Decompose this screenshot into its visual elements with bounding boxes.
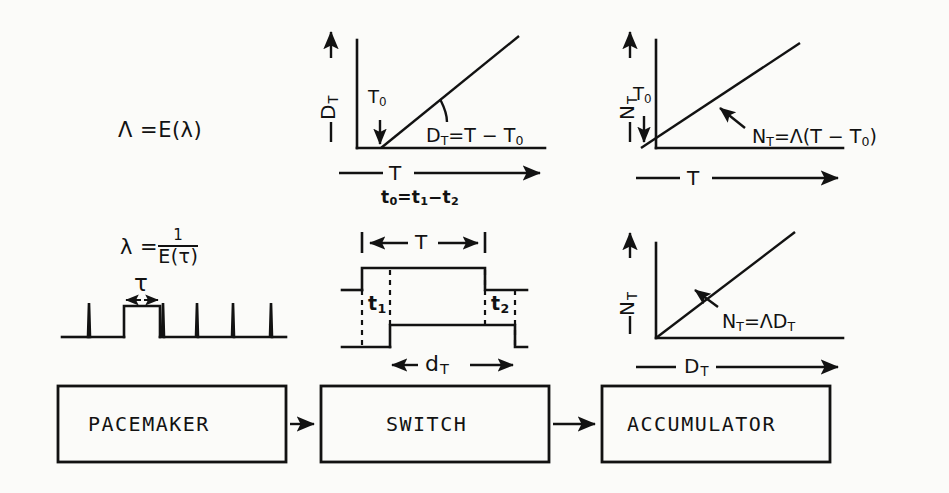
graph-nt-t-t0-marker-text: T [633, 83, 644, 104]
graph-nt-dt-curve-equation: NT=ΛDT [722, 312, 795, 333]
graph-nt-dt-x-axis-label: DT [684, 356, 708, 378]
graph-nt-t-t0-marker-sub: 0 [644, 92, 652, 106]
pulse-tau-label: τ [134, 272, 148, 295]
equation-small-lambda-lhs: λ = [120, 235, 158, 259]
fraction-denominator: E(τ) [158, 247, 198, 267]
switch-left-gap-label: t1 [368, 294, 386, 315]
graph-dt-curve-equation-rest: =T − T [448, 124, 515, 146]
graph-dt-footnote-c: t [443, 187, 451, 207]
graph-nt-t-y-axis-label-text: N [615, 104, 639, 120]
graph-dt-footnote-minus: − [428, 187, 443, 207]
graph-dt-t0-marker-sub: 0 [379, 95, 387, 109]
graph-dt-curve-equation-rest-sub: 0 [515, 133, 523, 148]
graph-dt-curve-pointer [440, 99, 447, 122]
block-pacemaker-label: PACEMAKER [88, 414, 210, 434]
graph-nt-dt-curve-equation-rest: =ΛD [744, 310, 788, 332]
graph-dt-curve-equation-main: D [426, 124, 441, 146]
graph-nt-dt-x-axis-label-sub: T [700, 364, 708, 379]
graph-dt-x-axis-label: T [389, 163, 402, 183]
graph-dt-y-axis-label: DT [318, 96, 340, 120]
graph-dt-footnote-b-sub: 1 [420, 195, 428, 208]
fraction-numerator: 1 [158, 228, 198, 242]
graph-dt-footnote-b: t [412, 187, 420, 207]
switch-bottom-span-label-sub: T [440, 361, 449, 377]
graph-dt-t0-marker: T0 [368, 88, 387, 108]
switch-bottom-span-label-text: d [425, 351, 440, 376]
graph-dt-curve-equation: DT=T − T0 [426, 126, 523, 147]
graph-nt-t-x-axis-label: T [687, 168, 700, 188]
graph-dt-y-axis-label-text: D [316, 104, 340, 120]
graph-dt-footnote-eq: = [397, 187, 412, 207]
graph-dt-footnote-c-sub: 2 [451, 195, 459, 208]
pulse-train-waveform [62, 303, 286, 337]
diagram-canvas: Λ =E(λ) λ =1E(τ) τ DT T0 DT=T − T0 T t0=… [0, 0, 949, 493]
switch-left-gap-label-text: t [368, 292, 377, 314]
graph-nt-t-curve-equation-main: N [752, 125, 766, 147]
switch-right-gap-label-text: t [491, 292, 500, 314]
equation-capital-lambda: Λ =E(λ) [118, 120, 202, 141]
graph-nt-t-curve-equation-tail: ) [869, 125, 876, 147]
graph-nt-dt-curve-equation-rest-sub: T [787, 319, 795, 334]
graph-nt-t-curve-equation: NT=Λ(T − T0) [752, 127, 877, 148]
equation-small-lambda: λ =1E(τ) [120, 228, 198, 267]
equation-small-lambda-fraction: 1E(τ) [158, 228, 198, 267]
graph-nt-t-curve-pointer [720, 108, 745, 128]
graph-nt-dt-y-axis-label-sub: T [625, 292, 640, 300]
graph-nt-t-curve-equation-sub: T [766, 134, 774, 149]
graph-nt-t-t0-marker: T0 [633, 85, 652, 105]
graph-dt-t0-marker-text: T [368, 86, 379, 107]
switch-right-gap-label: t2 [491, 294, 509, 315]
graph-nt-t-curve-equation-rest: =Λ(T − T [774, 125, 862, 147]
graph-nt-dt-y-axis-label: NT [617, 292, 639, 316]
graph-nt-dt-x-axis-label-text: D [684, 354, 700, 378]
switch-right-gap-label-sub: 2 [500, 301, 509, 316]
switch-top-span-label: T [415, 232, 428, 252]
switch-bottom-span-label: dT [425, 353, 449, 377]
block-switch-label: SWITCH [386, 414, 467, 434]
graph-nt-dt-curve-equation-main: N [722, 310, 736, 332]
switch-left-gap-label-sub: 1 [377, 301, 386, 316]
graph-nt-dt-curve-equation-sub: T [736, 319, 744, 334]
graph-dt-y-axis-label-sub: T [326, 96, 341, 104]
graph-nt-dt-y-axis-label-text: N [615, 300, 639, 316]
block-accumulator-label: ACCUMULATOR [627, 414, 776, 434]
graph-dt-footnote: t0=t1−t2 [381, 189, 459, 208]
